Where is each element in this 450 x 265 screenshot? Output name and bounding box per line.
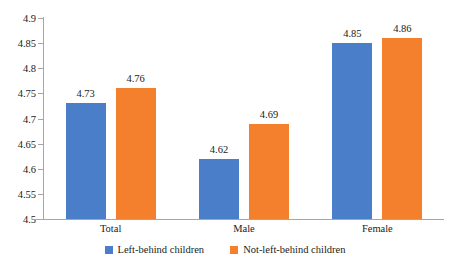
- x-axis-line: [34, 219, 444, 220]
- bar-total-series-2: [116, 88, 156, 219]
- bar-value-label: 4.69: [260, 109, 278, 120]
- legend-swatch-icon: [230, 246, 238, 254]
- y-axis-tick-label: 4.6: [0, 163, 36, 174]
- chart-figure: 4.94.854.84.754.74.654.64.554.5 4.734.76…: [0, 0, 450, 265]
- legend-item-2[interactable]: Not-left-behind children: [230, 244, 345, 255]
- y-axis-tick-label: 4.55: [0, 188, 36, 199]
- bar-total-series-1: [66, 103, 106, 219]
- bar-male-series-2: [249, 124, 289, 219]
- y-axis-tick-label: 4.7: [0, 113, 36, 124]
- x-axis-category-label: Female: [362, 223, 393, 234]
- bar-value-label: 4.85: [343, 28, 361, 39]
- bar-male-series-1: [199, 159, 239, 219]
- legend-swatch-icon: [105, 246, 113, 254]
- bar-value-label: 4.62: [210, 144, 228, 155]
- plot-area: 4.734.764.624.694.854.86: [44, 18, 444, 219]
- bar-value-label: 4.86: [393, 23, 411, 34]
- chart-legend: Left-behind childrenNot-left-behind chil…: [0, 244, 450, 255]
- bar-female-series-2: [382, 38, 422, 219]
- y-axis-tick-label: 4.65: [0, 138, 36, 149]
- legend-item-1[interactable]: Left-behind children: [105, 244, 205, 255]
- y-axis-tick-label: 4.9: [0, 13, 36, 24]
- y-axis-tick-label: 4.85: [0, 38, 36, 49]
- legend-label: Not-left-behind children: [243, 244, 345, 255]
- legend-label: Left-behind children: [118, 244, 205, 255]
- y-axis-tick-label: 4.8: [0, 63, 36, 74]
- bar-female-series-1: [332, 43, 372, 219]
- bar-value-label: 4.76: [126, 73, 144, 84]
- y-axis-tick-label: 4.75: [0, 88, 36, 99]
- x-axis-category-label: Male: [233, 223, 255, 234]
- y-axis-tick-label: 4.5: [0, 214, 36, 225]
- bar-value-label: 4.73: [76, 88, 94, 99]
- x-axis-category-label: Total: [100, 223, 121, 234]
